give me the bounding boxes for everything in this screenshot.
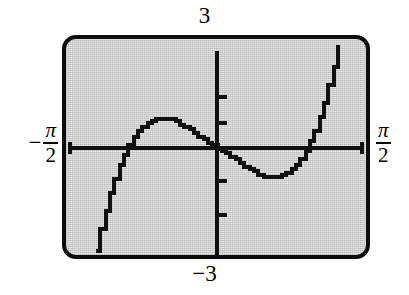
y-min-label: −3 (0, 262, 409, 285)
calculator-graph-figure: 3 − π 2 π 2 −3 (0, 0, 409, 295)
x-min-label: − π 2 (10, 115, 58, 171)
x-min-denominator: 2 (43, 144, 58, 166)
x-min-fraction: π 2 (43, 120, 58, 166)
x-max-numerator: π (376, 120, 391, 144)
x-max-denominator: 2 (376, 144, 391, 166)
graph-plot (62, 35, 370, 259)
calculator-screen (62, 35, 370, 259)
x-min-numerator: π (43, 120, 58, 144)
x-max-label: π 2 (376, 115, 408, 171)
axes-group (69, 51, 363, 256)
x-min-minus-sign: − (28, 131, 41, 154)
y-max-label: 3 (0, 4, 409, 27)
x-max-fraction: π 2 (376, 120, 391, 166)
